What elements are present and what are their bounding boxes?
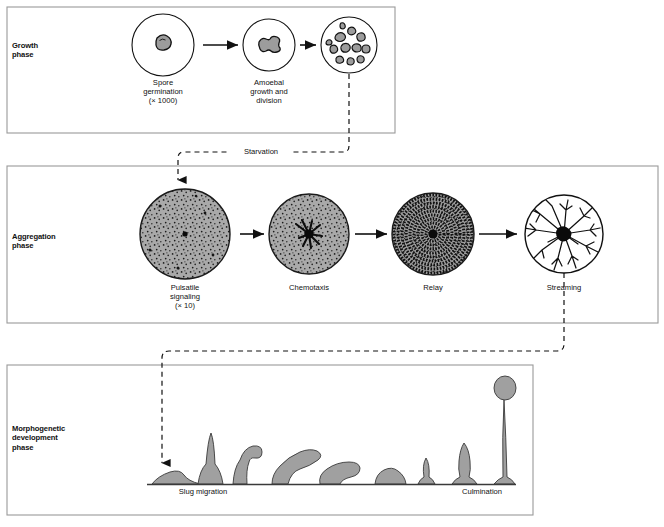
stage-fruiting-body bbox=[494, 400, 515, 484]
stage-finger bbox=[233, 446, 262, 484]
stage-migrating-slug bbox=[320, 462, 360, 484]
stage-chemotaxis bbox=[269, 194, 349, 274]
caption-chemotaxis: Chemotaxis bbox=[269, 283, 349, 292]
caption-relay: Relay bbox=[393, 283, 473, 292]
stage-mexican-hat-mound bbox=[375, 468, 406, 484]
diagram-svg bbox=[0, 0, 664, 527]
stage-tipped-aggregate bbox=[198, 433, 223, 484]
connector-label-starvation: Starvation bbox=[229, 147, 293, 156]
caption-culmination: Culmination bbox=[442, 487, 522, 496]
morphogenetic-stages bbox=[152, 376, 516, 484]
stage-amoebal-growth bbox=[243, 19, 295, 71]
caption-amoebal-growth: Amoebal growth and division bbox=[229, 78, 309, 106]
panel-label-aggregation: Aggregation phase bbox=[12, 232, 56, 251]
stage-mid-culminant bbox=[452, 443, 477, 484]
figure-canvas: Growth phase Aggregation phase Morphogen… bbox=[0, 0, 664, 527]
spore-head bbox=[494, 376, 516, 400]
stage-relay bbox=[392, 193, 474, 275]
stage-pulsatile-signaling bbox=[140, 189, 230, 279]
panel-label-growth: Growth phase bbox=[12, 41, 38, 60]
stage-spore-germination bbox=[132, 14, 194, 76]
stage-tilting-slug bbox=[272, 450, 321, 484]
caption-streaming: Streaming bbox=[524, 283, 604, 292]
caption-spore-germination: Spore germination (× 1000) bbox=[123, 78, 203, 106]
stage-loose-mound bbox=[152, 471, 200, 484]
caption-pulsatile-signaling: Pulsatile signaling (× 10) bbox=[145, 283, 225, 311]
stage-early-culminant bbox=[418, 458, 435, 484]
stage-amoebal-population bbox=[321, 17, 377, 73]
caption-slug-migration: Slug migration bbox=[163, 487, 243, 496]
panel-label-morphogenetic: Morphogenetic development phase bbox=[12, 424, 65, 452]
stage-streaming bbox=[524, 195, 603, 273]
